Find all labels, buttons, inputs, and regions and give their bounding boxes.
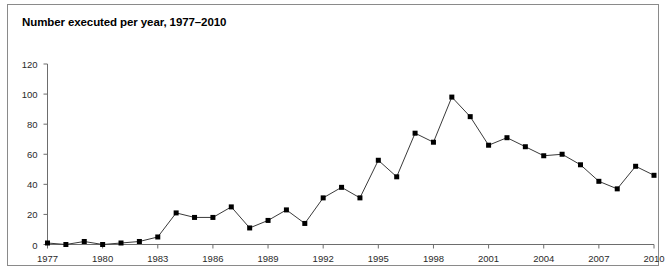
x-axis-tick-label: 1980 bbox=[83, 253, 123, 264]
y-axis-tick-label: 100 bbox=[12, 89, 38, 100]
x-axis-tick-label: 2007 bbox=[579, 253, 619, 264]
data-point-marker bbox=[45, 241, 50, 246]
data-point-marker bbox=[596, 179, 601, 184]
x-axis-tick-label: 2004 bbox=[524, 253, 564, 264]
data-point-marker bbox=[578, 162, 583, 167]
data-point-marker bbox=[302, 221, 307, 226]
data-point-marker bbox=[210, 215, 215, 220]
data-point-marker bbox=[174, 210, 179, 215]
data-point-marker bbox=[431, 140, 436, 145]
data-point-marker bbox=[560, 152, 565, 157]
data-point-marker bbox=[413, 131, 418, 136]
y-axis-tick-label: 0 bbox=[12, 239, 38, 250]
data-point-marker bbox=[192, 215, 197, 220]
y-axis-tick-label: 20 bbox=[12, 209, 38, 220]
data-point-marker bbox=[633, 164, 638, 169]
x-axis-tick-label: 1998 bbox=[413, 253, 453, 264]
data-point-marker bbox=[394, 174, 399, 179]
data-point-marker bbox=[339, 185, 344, 190]
data-point-marker bbox=[119, 241, 124, 246]
x-axis-tick-label: 1977 bbox=[28, 253, 68, 264]
data-point-marker bbox=[652, 173, 657, 178]
data-point-marker bbox=[266, 218, 271, 223]
data-point-marker bbox=[504, 135, 509, 140]
x-axis-tick-label: 2001 bbox=[469, 253, 509, 264]
data-point-marker bbox=[247, 225, 252, 230]
y-axis-tick-label: 60 bbox=[12, 149, 38, 160]
data-point-marker bbox=[357, 195, 362, 200]
data-point-marker bbox=[100, 242, 105, 247]
data-point-marker bbox=[541, 153, 546, 158]
y-axis-tick-label: 120 bbox=[12, 59, 38, 70]
x-axis-tick-label: 1992 bbox=[303, 253, 343, 264]
data-point-marker bbox=[486, 143, 491, 148]
data-point-marker bbox=[376, 158, 381, 163]
plot-area: 0204060801001201977198019831986198919921… bbox=[0, 0, 666, 270]
data-point-marker bbox=[63, 242, 68, 247]
data-point-marker bbox=[449, 95, 454, 100]
x-axis-tick-label: 1986 bbox=[193, 253, 233, 264]
x-axis-tick-label: 2010 bbox=[634, 253, 666, 264]
data-point-marker bbox=[82, 239, 87, 244]
x-axis-tick-label: 1995 bbox=[358, 253, 398, 264]
data-point-marker bbox=[229, 204, 234, 209]
data-point-marker bbox=[284, 207, 289, 212]
data-point-marker bbox=[137, 239, 142, 244]
x-axis-tick-label: 1989 bbox=[248, 253, 288, 264]
y-axis-tick-label: 40 bbox=[12, 179, 38, 190]
data-point-marker bbox=[468, 114, 473, 119]
y-axis-tick-label: 80 bbox=[12, 119, 38, 130]
data-point-marker bbox=[615, 186, 620, 191]
data-point-marker bbox=[321, 195, 326, 200]
data-series-line bbox=[48, 97, 655, 244]
data-point-marker bbox=[155, 234, 160, 239]
line-chart bbox=[0, 0, 666, 270]
x-axis-tick-label: 1983 bbox=[138, 253, 178, 264]
figure-container: Number executed per year, 1977–2010 0204… bbox=[0, 0, 666, 270]
data-point-marker bbox=[523, 144, 528, 149]
